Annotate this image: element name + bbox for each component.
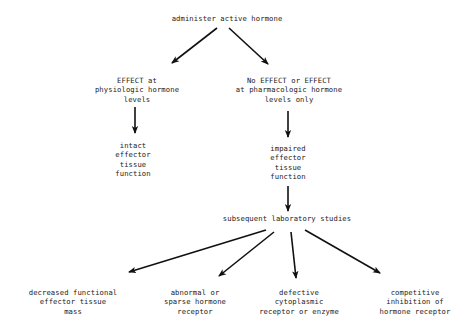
edges-layer (0, 0, 476, 335)
arrow-lab-to-decreased (129, 230, 266, 272)
node-effect-physiologic: EFFECT at physiologic hormone levels (95, 76, 179, 104)
arrow-lab-to-defective (291, 232, 296, 278)
arrow-root-to-no-effect (229, 28, 268, 64)
node-decreased-mass: decreased functional effector tissue mas… (29, 288, 118, 316)
arrow-lab-to-competitive (305, 230, 380, 273)
node-competitive-inhibition: competitive inhibition of hormone recept… (380, 288, 451, 316)
node-intact-function: intact effector tissue function (115, 141, 150, 179)
node-no-effect-pharmacologic: No EFFECT or EFFECT at pharmacologic hor… (236, 76, 342, 104)
node-abnormal-receptor: abnormal or sparse hormone receptor (164, 288, 226, 316)
arrow-root-to-effect (172, 28, 217, 63)
node-administer-hormone: administer active hormone (172, 14, 283, 23)
arrow-lab-to-abnormal (219, 232, 274, 276)
node-lab-studies: subsequent laboratory studies (223, 214, 351, 223)
node-impaired-function: impaired effector tissue function (270, 144, 305, 182)
node-defective-cytoplasmic: defective cytoplasmic receptor or enzyme (259, 288, 339, 316)
